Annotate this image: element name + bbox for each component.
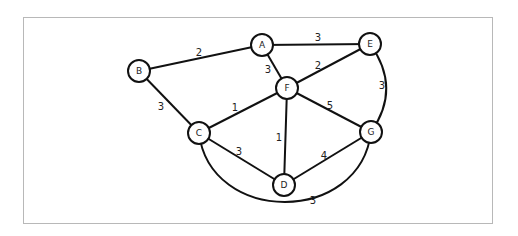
edge-d-g <box>284 132 371 185</box>
node-g: G <box>360 121 382 143</box>
node-label-f: F <box>284 83 289 93</box>
edge-a-e <box>262 44 370 45</box>
node-f: F <box>276 77 298 99</box>
node-label-c: C <box>196 128 202 138</box>
edge-c-d <box>199 133 284 185</box>
weight-c-g: 3 <box>310 195 316 206</box>
weight-a-f: 3 <box>265 64 271 75</box>
edge-f-d <box>284 88 287 185</box>
weight-f-d: 1 <box>276 132 282 143</box>
weight-f-g: 5 <box>327 100 333 111</box>
weight-f-e: 2 <box>315 60 321 71</box>
node-label-e: E <box>367 39 373 49</box>
node-d: D <box>273 174 295 196</box>
weight-c-f: 1 <box>232 102 238 113</box>
node-label-d: D <box>281 180 288 190</box>
edge-b-c <box>139 71 199 133</box>
node-a: A <box>251 34 273 56</box>
weight-a-e: 3 <box>315 32 321 43</box>
node-label-a: A <box>259 40 266 50</box>
edge-f-e <box>287 44 370 88</box>
edge-c-f <box>199 88 287 133</box>
graph-canvas: 2 3 3 2 3 3 1 5 1 3 4 3 A E B F C <box>0 0 518 236</box>
weight-e-g: 3 <box>379 80 385 91</box>
weight-d-g: 4 <box>321 150 327 161</box>
weight-b-c: 3 <box>158 101 164 112</box>
node-label-b: B <box>136 66 142 76</box>
weight-c-d: 3 <box>236 146 242 157</box>
weight-b-a: 2 <box>196 47 202 58</box>
edge-weights: 2 3 3 2 3 3 1 5 1 3 4 3 <box>158 32 385 206</box>
node-e: E <box>359 33 381 55</box>
node-b: B <box>128 60 150 82</box>
node-label-g: G <box>368 127 375 137</box>
edges <box>139 44 386 202</box>
node-c: C <box>188 122 210 144</box>
